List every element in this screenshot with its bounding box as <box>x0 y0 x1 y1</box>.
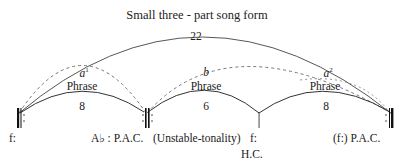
cadence-1-label: A♭ : P.A.C. <box>91 133 143 145</box>
phrase-divider <box>259 112 260 128</box>
middle-repeat-barline <box>142 108 153 128</box>
total-measures: 22 <box>190 31 202 43</box>
phrase-1-label: Phrase <box>67 81 98 93</box>
start-key-label: f: <box>9 133 16 145</box>
section-b-label: b <box>203 67 209 79</box>
section-a1-label: a1 <box>79 67 88 80</box>
phrase-2-measures: 6 <box>203 101 209 113</box>
phrase-3-label: Phrase <box>310 81 341 93</box>
section-a2-label: a2 <box>323 67 332 80</box>
key-2-label: f: <box>250 133 257 145</box>
end-repeat-barline <box>385 108 393 128</box>
phrase-2-label: Phrase <box>191 81 222 93</box>
phrase-1-measures: 8 <box>79 101 85 113</box>
cadence-3-label: (f:) P.A.C. <box>333 133 380 145</box>
cadence-2-label: H.C. <box>241 149 263 161</box>
form-title: Small three - part song form <box>126 9 267 22</box>
tonality-note: (Unstable-tonality) <box>153 133 241 145</box>
phrase-3-measures: 8 <box>323 101 329 113</box>
